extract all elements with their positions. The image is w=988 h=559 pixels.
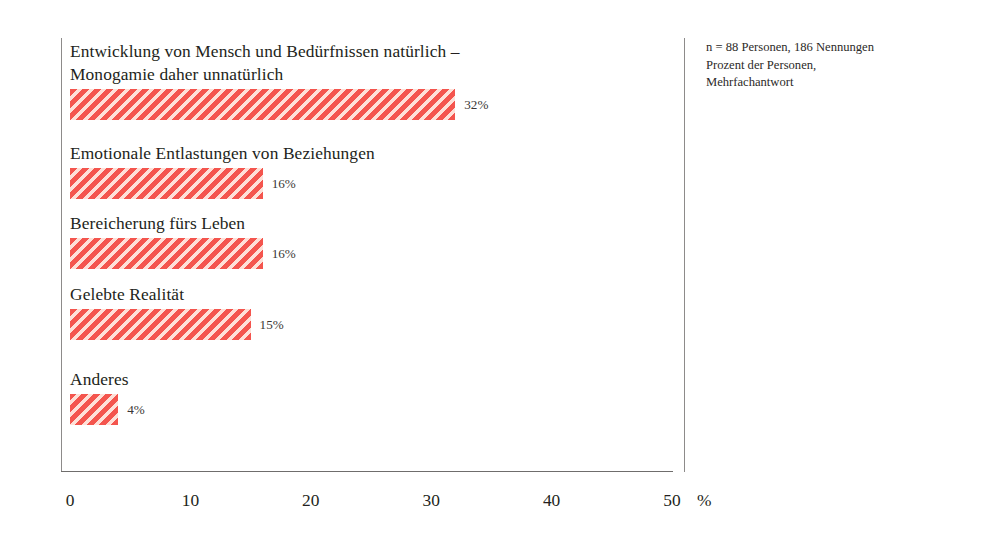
x-axis-tick-label: 10 [182,489,199,511]
x-axis-tick-label: 50 [663,489,680,511]
bar-row: Entwicklung von Mensch und Bedürfnissen … [70,40,684,120]
bar-row: Bereicherung fürs Leben16% [70,212,684,269]
bar-category-label: Anderes [70,368,684,391]
bar-value-label: 4% [127,402,145,417]
bar [70,89,455,120]
x-axis-tick-label: 0 [66,489,75,511]
bar-row: Emotionale Entlastungen von Beziehungen1… [70,142,684,199]
x-axis-tick-label: 30 [422,489,439,511]
bar-track: 16% [70,238,684,269]
bar [70,238,263,269]
x-axis-tick-label: 20 [302,489,319,511]
bar-row: Anderes4% [70,368,684,425]
panel-divider-line [684,38,685,472]
bar-track: 15% [70,309,684,340]
sample-size-note: n = 88 Personen, 186 Nennungen Prozent d… [706,39,966,92]
bar-track: 32% [70,89,684,120]
bar-category-label: Gelebte Realität [70,283,684,306]
bar-rows: Entwicklung von Mensch und Bedürfnissen … [0,0,684,472]
x-axis-tick-labels: 01020304050 [0,489,684,515]
bar [70,394,118,425]
x-axis-unit-label: % [697,489,712,511]
bar-category-label: Bereicherung fürs Leben [70,212,684,235]
x-axis-tick-label: 40 [543,489,560,511]
bar-row: Gelebte Realität15% [70,283,684,340]
bar-chart-figure: Entwicklung von Mensch und Bedürfnissen … [0,0,988,559]
bar-value-label: 16% [272,246,296,261]
bar-category-label: Emotionale Entlastungen von Beziehungen [70,142,684,165]
bar-category-label: Entwicklung von Mensch und Bedürfnissen … [70,40,684,86]
bar-value-label: 16% [272,176,296,191]
bar-value-label: 15% [260,317,284,332]
bar [70,168,263,199]
bar [70,309,251,340]
bar-track: 4% [70,394,684,425]
bar-track: 16% [70,168,684,199]
bar-value-label: 32% [464,97,488,112]
